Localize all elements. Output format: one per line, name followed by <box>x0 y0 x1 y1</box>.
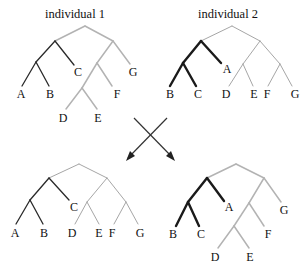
leaf-label: C <box>197 227 205 241</box>
leaf-label: D <box>211 250 220 264</box>
leaf-label: B <box>46 87 54 101</box>
leaf-label: B <box>166 87 174 101</box>
leaf-label: F <box>109 226 116 240</box>
tree-individual-1: individual 1 A B C D E F G <box>17 7 138 125</box>
title-individual-2: individual 2 <box>198 7 258 21</box>
leaf-label: D <box>68 226 77 240</box>
crossover-diagram: individual 1 A B C D E F G individual 2 <box>0 0 305 274</box>
leaf-label: A <box>223 62 232 76</box>
leaf-label: F <box>264 87 271 101</box>
leaf-label: A <box>225 200 234 214</box>
leaf-label: B <box>40 226 48 240</box>
leaf-label: G <box>129 65 138 79</box>
leaf-label: F <box>265 227 272 241</box>
leaf-label: D <box>59 111 68 125</box>
leaf-label: E <box>94 111 101 125</box>
leaf-label: B <box>169 227 177 241</box>
leaf-label: E <box>250 87 257 101</box>
leaf-label: E <box>95 226 102 240</box>
leaf-label: D <box>222 87 231 101</box>
leaf-label: F <box>114 87 121 101</box>
leaf-label: C <box>70 200 78 214</box>
tree-individual-2: individual 2 B C A D E F G <box>166 7 300 101</box>
leaf-label: E <box>246 250 253 264</box>
leaf-label: C <box>74 65 82 79</box>
tree-offspring-2: B C A G F D E <box>169 164 289 264</box>
leaf-label: G <box>291 87 300 101</box>
leaf-label: A <box>17 87 26 101</box>
leaf-label: C <box>194 87 202 101</box>
crossover-arrows-icon <box>126 118 175 161</box>
tree-offspring-1: A B C D E F G <box>11 164 145 240</box>
leaf-label: G <box>280 203 289 217</box>
leaf-label: A <box>11 226 20 240</box>
title-individual-1: individual 1 <box>45 7 105 21</box>
leaf-label: G <box>136 226 145 240</box>
